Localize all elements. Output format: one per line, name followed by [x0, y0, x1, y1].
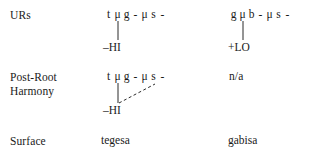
segment-separator: -	[256, 8, 265, 20]
mora-segment: μ	[140, 70, 149, 82]
mora-segment: μ	[113, 8, 122, 20]
not-applicable-prh-col2: n/a	[229, 70, 243, 83]
segment: g	[122, 70, 131, 82]
segment: s	[149, 70, 158, 82]
segment-tier-urs-col2: g μ b - μ s -	[229, 8, 292, 20]
segment-separator: -	[131, 70, 140, 82]
segment-separator: -	[158, 70, 167, 82]
segment-tier-urs-col1: t μ g - μ s -	[104, 8, 167, 20]
segment-separator: -	[283, 8, 292, 20]
segment: s	[274, 8, 283, 20]
feature-prh-col1: –HI	[103, 104, 121, 116]
segment: t	[104, 70, 113, 82]
mora-segment: μ	[113, 70, 122, 82]
segment: g	[122, 8, 131, 20]
segment: t	[104, 8, 113, 20]
segment: g	[229, 8, 238, 20]
association-line-prh-col1-dashed	[119, 84, 155, 103]
segment: s	[149, 8, 158, 20]
mora-segment: μ	[265, 8, 274, 20]
segment-separator: -	[131, 8, 140, 20]
surface-form-col2: gabisa	[228, 134, 257, 146]
surface-form-col1: tegesa	[101, 134, 130, 146]
segment-tier-prh-col1: t μ g - μ s -	[104, 70, 167, 82]
row-label-post-root-harmony-line1: Post-Root	[10, 70, 57, 84]
feature-urs-col2: +LO	[228, 41, 250, 53]
autosegmental-derivation-figure: URs t μ g - μ s - –HI g μ b - μ s - +LO …	[0, 0, 325, 160]
mora-segment: μ	[140, 8, 149, 20]
mora-segment: μ	[238, 8, 247, 20]
row-label-surface: Surface	[10, 134, 46, 148]
segment-separator: -	[158, 8, 167, 20]
row-label-post-root-harmony-line2: Harmony	[10, 84, 54, 98]
row-label-urs: URs	[10, 8, 31, 22]
segment: b	[247, 8, 256, 20]
feature-urs-col1: –HI	[103, 41, 121, 53]
